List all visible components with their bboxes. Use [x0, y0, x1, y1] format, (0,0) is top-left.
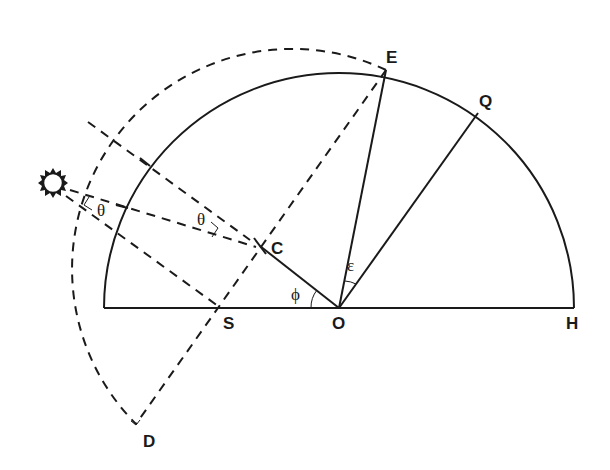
right-angle-marker-theta-1 [84, 197, 92, 210]
angle-arc-phi [311, 290, 317, 308]
sun-icon [38, 168, 68, 198]
label-D: D [143, 432, 155, 451]
angle-label-theta-2: θ [197, 210, 205, 229]
label-E: E [386, 48, 397, 67]
label-H: H [566, 314, 578, 333]
label-C: C [271, 239, 283, 258]
celestial-geometry-diagram: E Q C S O H D θ θ ϕ ε [0, 0, 610, 470]
angle-label-phi: ϕ [291, 285, 300, 304]
dashed-arc [72, 49, 386, 424]
label-S: S [223, 314, 234, 333]
dashed-line-sun-to-S [66, 196, 218, 306]
celestial-semicircle [104, 73, 574, 308]
label-O: O [332, 314, 345, 333]
dashed-line-upper-to-C [88, 122, 250, 240]
label-Q: Q [479, 92, 492, 111]
angle-label-theta-1: θ [97, 201, 105, 220]
angle-arc-epsilon [345, 281, 356, 284]
line-O-Q [339, 113, 478, 308]
angle-label-epsilon: ε [347, 256, 354, 275]
